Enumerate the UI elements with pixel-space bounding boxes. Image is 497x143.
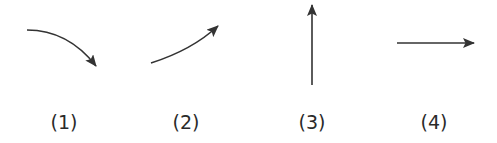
arrow-2-curved-up-right-icon [151,26,218,63]
arrow-1-curved-down-right-icon [27,30,96,66]
label-3: (3) [299,111,326,133]
label-1: (1) [51,111,78,133]
label-4: (4) [421,111,448,133]
label-2: (2) [173,111,200,133]
